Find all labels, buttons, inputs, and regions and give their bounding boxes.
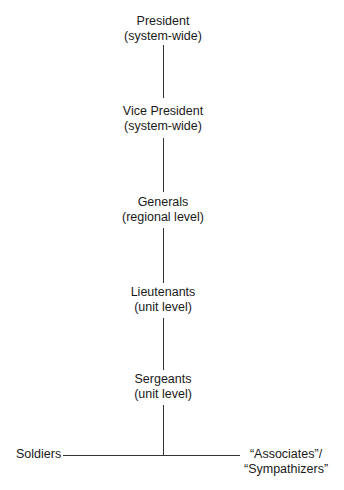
node-label-line2: “Sympathizers” — [244, 462, 328, 477]
node-scope: (system-wide) — [63, 119, 263, 134]
node-title: Generals — [63, 195, 263, 210]
node-associates-sympathizers: “Associates”/ “Sympathizers” — [244, 447, 328, 477]
node-president: President (system-wide) — [63, 14, 263, 44]
node-title: Lieutenants — [63, 285, 263, 300]
node-scope: (system-wide) — [63, 29, 263, 44]
node-scope: (unit level) — [63, 387, 263, 402]
node-label-line1: “Associates”/ — [244, 447, 328, 462]
node-generals: Generals (regional level) — [63, 195, 263, 225]
connector-line — [163, 318, 164, 370]
connector-line — [163, 45, 164, 98]
node-title: Sergeants — [63, 372, 263, 387]
node-scope: (unit level) — [63, 300, 263, 315]
node-vice-president: Vice President (system-wide) — [63, 104, 263, 134]
connector-line — [163, 405, 164, 456]
branch-line — [63, 455, 240, 456]
node-soldiers: Soldiers — [16, 447, 61, 462]
node-title: Vice President — [63, 104, 263, 119]
connector-line — [163, 138, 164, 192]
node-sergeants: Sergeants (unit level) — [63, 372, 263, 402]
node-scope: (regional level) — [63, 210, 263, 225]
node-lieutenants: Lieutenants (unit level) — [63, 285, 263, 315]
node-title: President — [63, 14, 263, 29]
connector-line — [163, 228, 164, 283]
